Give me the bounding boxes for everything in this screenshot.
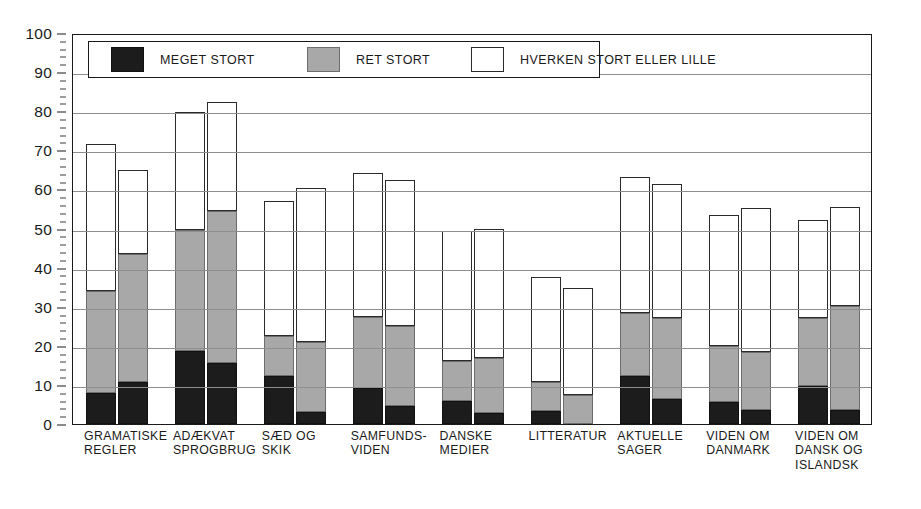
y-tick-minor (60, 213, 66, 214)
y-tick-minor (60, 323, 66, 324)
y-axis-tick-label: 40 (34, 260, 52, 278)
chart-legend: MEGET STORTRET STORTHVERKEN STORT ELLER … (88, 41, 600, 78)
y-axis-tick-label: 20 (34, 338, 52, 356)
legend-swatch-black (111, 47, 144, 72)
bar-segment-white (385, 180, 415, 327)
y-tick-minor (60, 166, 66, 167)
bar-group (251, 35, 340, 424)
x-axis-category-label: LITTERATUR (528, 429, 623, 443)
bar-segment-gray (830, 306, 860, 410)
y-tick-minor (60, 260, 66, 261)
bar-segment-white (830, 207, 860, 306)
gridline (73, 387, 871, 388)
gridline (73, 113, 871, 114)
y-tick-minor (60, 417, 66, 418)
y-tick-minor (60, 409, 66, 410)
legend-item: HVERKEN STORT ELLER LILLE (471, 47, 716, 72)
y-axis-tick-label: 50 (34, 221, 52, 239)
bar-segment-gray (442, 361, 472, 400)
bar-segment-gray (385, 326, 415, 406)
bar-segment-gray (563, 395, 593, 424)
bar-segment-black (620, 376, 650, 424)
y-tick-major (57, 425, 66, 426)
bar-segment-gray (741, 352, 771, 410)
bar-segment-gray (353, 317, 383, 387)
bar-segment-white (652, 184, 682, 318)
bar-group (784, 35, 873, 424)
y-tick-minor (60, 182, 66, 183)
bar-segment-black (118, 382, 148, 424)
bar-segment-white (531, 277, 561, 383)
gridline (73, 270, 871, 271)
bar-segment-black (830, 410, 860, 424)
bar-segment-gray (118, 254, 148, 382)
legend-label: RET STORT (356, 53, 430, 67)
bar-segment-white (118, 170, 148, 254)
y-tick-major (57, 73, 66, 74)
y-tick-minor (60, 221, 66, 222)
y-axis-tick-label: 80 (34, 103, 52, 121)
gridline (73, 309, 871, 310)
bar-segment-white (474, 229, 504, 359)
bar-segment-gray (620, 313, 650, 376)
bar-group (606, 35, 695, 424)
y-tick-minor (60, 127, 66, 128)
y-axis: 0102030405060708090100 (0, 34, 66, 425)
gridline (73, 152, 871, 153)
x-axis-category-label: ADÆKVAT SPROGBRUG (173, 429, 268, 458)
bar-segment-white (442, 231, 472, 361)
legend-swatch-gray (307, 47, 340, 72)
bar-segment-white (175, 112, 205, 229)
bar-segment-black (207, 363, 237, 424)
y-axis-tick-label: 30 (34, 299, 52, 317)
chart-root: 0102030405060708090100 MEGET STORTRET ST… (0, 0, 921, 509)
y-tick-minor (60, 88, 66, 89)
y-tick-minor (60, 49, 66, 50)
bar-segment-white (563, 288, 593, 395)
x-axis-category-labels: GRAMATISKE REGLERADÆKVAT SPROGBRUGSÆD OG… (72, 429, 872, 507)
y-axis-tick-label: 90 (34, 64, 52, 82)
bar-group (517, 35, 606, 424)
y-tick-minor (60, 362, 66, 363)
y-tick-minor (60, 401, 66, 402)
bar-group (340, 35, 429, 424)
y-axis-tick-label: 60 (34, 181, 52, 199)
bar-segment-black (296, 412, 326, 424)
bar-segment-gray (264, 336, 294, 376)
y-tick-minor (60, 338, 66, 339)
y-tick-minor (60, 57, 66, 58)
y-tick-minor (60, 370, 66, 371)
y-tick-minor (60, 245, 66, 246)
y-tick-minor (60, 159, 66, 160)
bar-segment-white (264, 201, 294, 336)
y-tick-minor (60, 96, 66, 97)
y-tick-minor (60, 65, 66, 66)
y-tick-minor (60, 354, 66, 355)
y-axis-tick-label: 0 (43, 416, 52, 434)
bar-segment-gray (86, 291, 116, 393)
bars-layer (73, 35, 871, 424)
bar-segment-black (531, 411, 561, 424)
y-tick-major (57, 112, 66, 113)
bar-segment-white (353, 173, 383, 318)
y-tick-major (57, 190, 66, 191)
x-axis-category-label: VIDEN OM DANSK OG ISLANDSK (795, 429, 890, 472)
y-axis-tick-label: 100 (26, 25, 52, 43)
bar-segment-black (442, 401, 472, 424)
y-axis-tick-label: 70 (34, 142, 52, 160)
bar-segment-gray (296, 342, 326, 412)
y-tick-minor (60, 206, 66, 207)
bar-segment-black (741, 410, 771, 424)
bar-segment-black (798, 386, 828, 424)
y-axis-tick-label: 10 (34, 377, 52, 395)
bar-segment-black (709, 402, 739, 424)
legend-label: HVERKEN STORT ELLER LILLE (520, 53, 716, 67)
bar-segment-black (86, 393, 116, 424)
gridline (73, 191, 871, 192)
bar-segment-white (207, 102, 237, 211)
y-tick-minor (60, 120, 66, 121)
bar-segment-black (353, 388, 383, 424)
bar-segment-gray (207, 211, 237, 363)
x-axis-category-label: DANSKE MEDIER (440, 429, 535, 458)
bar-segment-gray (709, 346, 739, 402)
